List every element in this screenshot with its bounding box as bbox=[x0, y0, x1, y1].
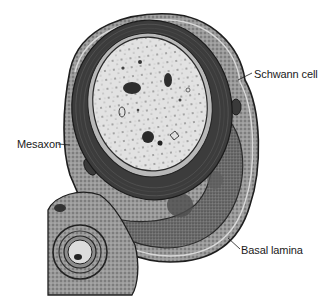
basal-leader-line bbox=[228, 238, 240, 249]
label-mesaxon: Mesaxon bbox=[17, 138, 61, 150]
label-basal-lamina: Basal lamina bbox=[241, 244, 303, 256]
label-schwann-cell: Schwann cell bbox=[254, 68, 318, 80]
